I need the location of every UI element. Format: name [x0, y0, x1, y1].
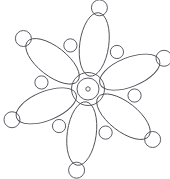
rosette-figure: Six-petal rosette geometric line figure — [0, 0, 170, 179]
canvas-background — [0, 0, 170, 179]
